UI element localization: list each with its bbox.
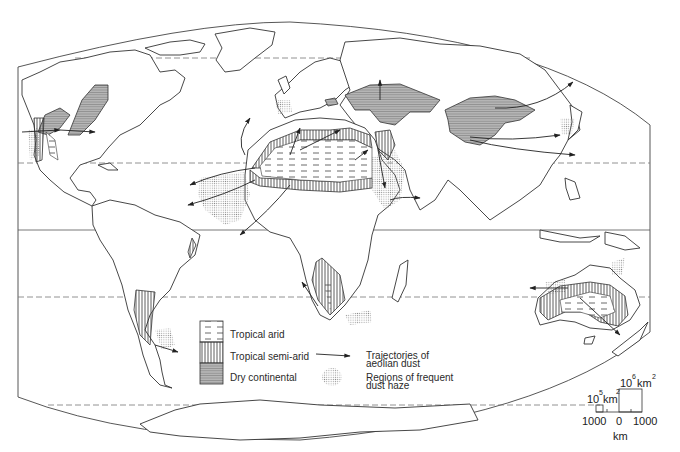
scale-unit: km	[613, 430, 628, 442]
legend-arrow-symbol	[316, 354, 350, 356]
scale-large-unit: km	[637, 377, 652, 389]
antarctica	[140, 400, 478, 440]
scale-large-exp: 6	[632, 373, 636, 380]
indonesia	[540, 230, 600, 242]
arctic-islands	[145, 40, 205, 55]
legend-swatch-tropical-arid	[200, 321, 223, 342]
scale-small-unit-exp: 2	[616, 388, 620, 395]
madagascar	[392, 260, 408, 302]
legend-label-tropical-arid: Tropical arid	[230, 330, 285, 340]
tasmania	[584, 336, 595, 344]
legend-label-trajectories-line2: aeolian dust	[366, 360, 420, 368]
legend-label-tropical-semi-arid: Tropical semi-arid	[230, 352, 309, 362]
scale-tick-right: 1000	[633, 415, 657, 427]
scale-tick-left: 1000	[582, 415, 606, 427]
legend-swatch-dry-continental	[200, 363, 223, 384]
cuba	[98, 163, 118, 170]
scale-box-small	[596, 405, 603, 412]
scale-large-unit-exp: 2	[652, 373, 656, 380]
legend-label-dust-haze-line2: dust haze	[366, 382, 409, 390]
scale-small-base: 10	[587, 393, 599, 405]
legend-swatch-tropical-semi-arid	[200, 342, 223, 363]
new-guinea	[605, 232, 640, 250]
legend-stipple-symbol	[322, 368, 342, 386]
world-dust-map	[0, 0, 680, 452]
philippines	[565, 178, 580, 200]
scale-large-base: 10	[620, 377, 632, 389]
legend-label-dry-continental: Dry continental	[230, 373, 297, 383]
scale-tick-zero: 0	[616, 415, 622, 427]
greenland	[215, 28, 275, 72]
scale-box-large	[619, 389, 642, 412]
